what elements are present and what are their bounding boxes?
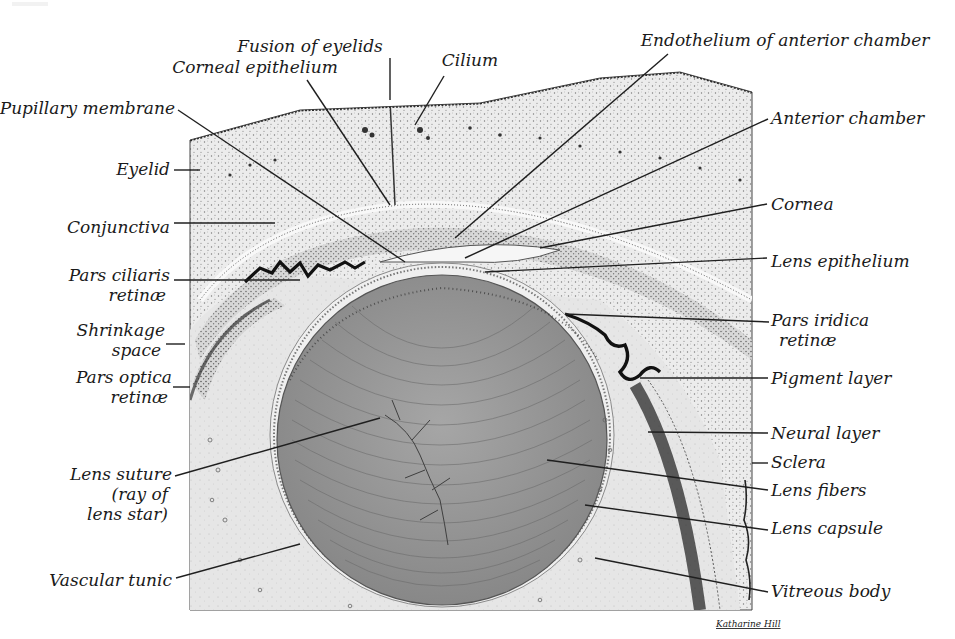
leader-line-neural-layer <box>648 432 768 433</box>
label-shrinkage-space: Shrinkagespace <box>77 320 166 360</box>
label-neural-layer: Neural layer <box>770 423 880 443</box>
label-pars-ciliaris-retinae: Pars ciliarisretinæ <box>68 265 171 305</box>
label-cornea: Cornea <box>771 194 834 214</box>
label-cilium: Cilium <box>442 50 498 70</box>
label-lens-epithelium: Lens epithelium <box>770 251 910 271</box>
label-sclera: Sclera <box>771 452 826 472</box>
label-lens-capsule: Lens capsule <box>770 518 883 538</box>
label-vascular-tunic: Vascular tunic <box>49 570 172 590</box>
label-pigment-layer: Pigment layer <box>770 368 892 388</box>
tissue-block <box>190 72 752 610</box>
label-corneal-epithelium: Corneal epithelium <box>172 57 338 77</box>
label-lens-fibers: Lens fibers <box>770 480 867 500</box>
eye-section-diagram: Pupillary membraneEyelidConjunctivaPars … <box>0 0 955 639</box>
label-conjunctiva: Conjunctiva <box>67 217 170 237</box>
label-pars-iridica-retinae: Pars iridicaretinæ <box>770 310 869 350</box>
label-endothelium-anterior-chamber: Endothelium of anterior chamber <box>640 30 931 50</box>
label-pupillary-membrane: Pupillary membrane <box>0 98 175 118</box>
label-fusion-of-eyelids: Fusion of eyelids <box>236 36 383 56</box>
label-pars-optica-retinae: Pars opticaretinæ <box>75 367 172 407</box>
artist-signature: Katharine Hill <box>715 619 781 629</box>
label-lens-suture: Lens suture(ray oflens star) <box>69 464 172 524</box>
scan-artifact <box>12 2 48 6</box>
diagram-canvas: Pupillary membraneEyelidConjunctivaPars … <box>0 0 955 639</box>
label-eyelid: Eyelid <box>115 159 170 179</box>
label-vitreous-body: Vitreous body <box>771 581 891 601</box>
label-anterior-chamber: Anterior chamber <box>769 108 925 128</box>
